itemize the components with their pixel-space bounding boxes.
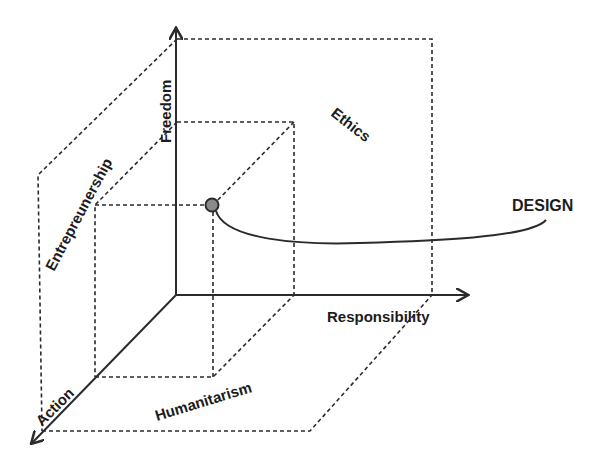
action-label: Action <box>32 384 77 429</box>
design-label: DESIGN <box>512 197 573 214</box>
freedom-label: Freedom <box>157 80 174 143</box>
entrepreunership-label: Entrepreunership <box>42 155 116 273</box>
responsibility-label: Responsibility <box>327 308 430 325</box>
outer-frame <box>38 39 432 431</box>
design-3d-diagram: Freedom Responsibility Action Entrepreun… <box>0 0 612 468</box>
humanitarism-label: Humanitarism <box>153 378 254 424</box>
inner-cube <box>95 122 294 377</box>
axes <box>32 29 467 443</box>
design-connector-curve <box>216 211 546 243</box>
action-axis <box>32 295 176 443</box>
design-point <box>206 199 219 212</box>
ethics-label: Ethics <box>328 104 374 145</box>
